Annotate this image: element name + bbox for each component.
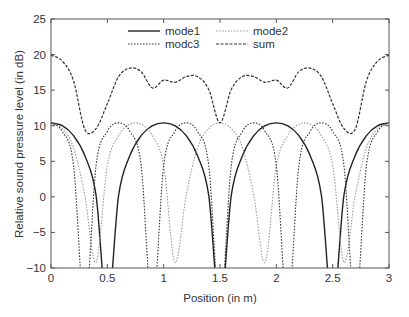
x-tick-label: 1 (160, 272, 166, 284)
y-tick-label: 5 (40, 155, 46, 167)
y-tick-label: −5 (33, 226, 46, 238)
x-tick-label: 1.5 (212, 272, 228, 284)
y-axis-label: Relative sound pressure level (in dB) (13, 50, 25, 238)
y-axis-ticks: −10−50510152025 (26, 13, 389, 274)
legend-label-mode1: mode1 (165, 25, 200, 37)
y-tick-label: −10 (26, 262, 46, 274)
legend: mode1mode2modc3sum (128, 25, 288, 50)
sound-pressure-chart: 00.511.522.53 −10−50510152025 Position (… (0, 0, 409, 317)
legend-label-mode2: mode2 (253, 25, 288, 37)
series-mode2 (51, 123, 389, 263)
x-tick-label: 3 (386, 272, 392, 284)
x-tick-label: 0.5 (99, 272, 115, 284)
y-tick-label: 10 (33, 120, 46, 132)
series-sum (51, 55, 389, 133)
x-axis-label: Position (in m) (183, 292, 257, 304)
legend-label-sum: sum (253, 38, 275, 50)
y-tick-label: 0 (40, 191, 46, 203)
y-tick-label: 25 (33, 13, 46, 25)
x-tick-label: 0 (48, 272, 54, 284)
x-tick-label: 2.5 (325, 272, 341, 284)
x-tick-label: 2 (273, 272, 279, 284)
plot-frame (51, 19, 389, 268)
y-tick-label: 15 (33, 84, 46, 96)
y-tick-label: 20 (33, 49, 46, 61)
legend-label-modc3: modc3 (165, 38, 200, 50)
chart-canvas: 00.511.522.53 −10−50510152025 Position (… (0, 0, 409, 317)
